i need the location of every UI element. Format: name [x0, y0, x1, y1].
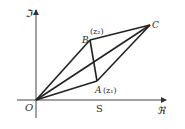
y-axis-label: ℑ — [25, 8, 34, 19]
point-B-sublabel: (z₂) — [90, 27, 104, 36]
origin-label: O — [25, 102, 33, 113]
point-B-label: B — [81, 35, 89, 45]
point-A-sublabel: (z₁) — [103, 86, 117, 95]
parallelogram-diagram: ℑ ℜ O S B (z₂) C A (z₁) — [0, 0, 185, 129]
segment-OC — [36, 25, 150, 100]
point-A-label: A — [94, 85, 102, 95]
point-C-label: C — [152, 20, 159, 30]
segment-AC — [97, 25, 150, 81]
x-tick-label-S: S — [96, 103, 103, 114]
x-axis-label: ℜ — [157, 105, 166, 116]
